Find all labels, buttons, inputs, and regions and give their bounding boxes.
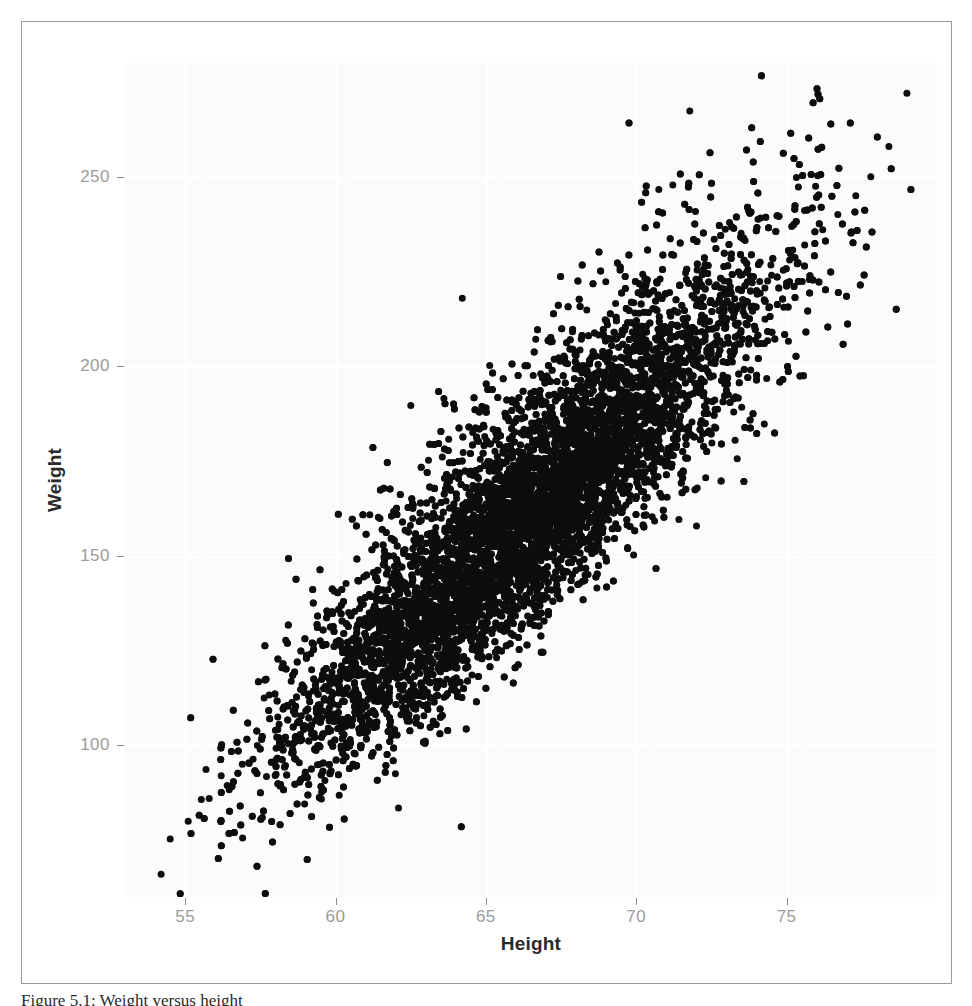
x-tick-mark-65 xyxy=(486,898,487,905)
x-tick-label-70: 70 xyxy=(626,907,646,927)
x-tick-label-55: 55 xyxy=(175,907,195,927)
x-tick-mark-70 xyxy=(636,898,637,905)
figure-caption: Figure 5.1: Weight versus height xyxy=(21,991,721,1006)
x-tick-mark-75 xyxy=(787,898,788,905)
figure-frame: 5560657075100150200250 Height Weight xyxy=(21,21,952,984)
x-tick-mark-55 xyxy=(185,898,186,905)
y-tick-mark-250 xyxy=(117,177,124,178)
y-tick-label-200: 200 xyxy=(80,356,110,376)
y-tick-label-250: 250 xyxy=(80,167,110,187)
scatter-points-layer xyxy=(125,63,937,897)
y-tick-label-100: 100 xyxy=(80,735,110,755)
x-tick-label-65: 65 xyxy=(476,907,496,927)
x-tick-label-75: 75 xyxy=(777,907,797,927)
y-tick-label-150: 150 xyxy=(80,546,110,566)
x-tick-mark-60 xyxy=(336,898,337,905)
y-axis-title: Weight xyxy=(44,448,66,512)
y-tick-mark-200 xyxy=(117,366,124,367)
scatter-plot: 5560657075100150200250 Height Weight xyxy=(22,22,953,985)
y-tick-mark-150 xyxy=(117,556,124,557)
x-axis-title: Height xyxy=(125,933,937,955)
y-tick-mark-100 xyxy=(117,745,124,746)
plot-panel xyxy=(125,63,937,897)
x-tick-label-60: 60 xyxy=(326,907,346,927)
